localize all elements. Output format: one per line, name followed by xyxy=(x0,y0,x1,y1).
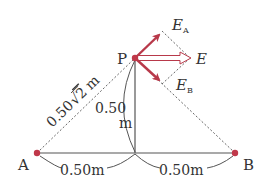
vector-EA-label: EA xyxy=(171,16,189,35)
vector-E-arrow xyxy=(137,52,191,64)
vector-E-label: E xyxy=(195,50,207,68)
dimension-PO-value: 0.50 xyxy=(95,100,126,116)
point-P-label: P xyxy=(117,50,127,68)
point-A-label: A xyxy=(17,156,29,174)
svg-text:0.50√2m: 0.50√2m xyxy=(43,72,103,130)
dimension-PO-unit: m xyxy=(119,115,132,131)
dimension-AO-label: 0.50m xyxy=(60,162,104,178)
dimension-OB-label: 0.50m xyxy=(159,162,203,178)
vector-EA-arrow xyxy=(135,35,159,58)
point-P-dot xyxy=(132,55,138,61)
vector-EB-arrow xyxy=(135,58,159,80)
vector-EB-label: EB xyxy=(175,76,193,95)
electric-field-diagram: P A B EA E EB 0.50√2m 0.50 m 0.50m 0.50m xyxy=(0,0,271,194)
charge-B-dot xyxy=(232,150,238,156)
charge-A-dot xyxy=(34,150,40,156)
point-B-label: B xyxy=(243,156,254,174)
dimension-AP-label: 0.50√2m xyxy=(43,72,103,130)
